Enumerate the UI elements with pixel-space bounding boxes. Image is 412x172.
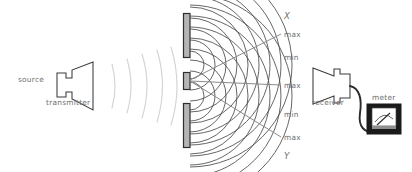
wavefront-arc-upper <box>190 51 204 79</box>
axis-label-y: Y <box>284 152 289 161</box>
fringe-label-min-upper: min <box>284 54 299 61</box>
diagram-canvas <box>0 0 412 172</box>
wavefront-arc-lower <box>190 0 292 172</box>
axis-label-x: X <box>284 12 290 21</box>
wavefront-arc-lower <box>190 82 204 110</box>
meter-label: meter <box>372 94 395 101</box>
wavefront-arc-upper <box>190 18 237 112</box>
fringe-label-max-lower-outer: max <box>284 134 301 141</box>
meter-base-bar <box>372 126 396 129</box>
fringe-label-min-lower: min <box>284 111 299 118</box>
source-label: source <box>18 76 44 83</box>
fringe-label-max-upper-outer: max <box>284 31 301 38</box>
incident-wave-arc <box>157 50 163 122</box>
incident-wave-arc <box>127 59 131 113</box>
barrier-segment-middle <box>184 73 191 90</box>
incident-wave-arc <box>171 47 177 125</box>
meter-face <box>372 108 396 126</box>
wavefront-arc-upper <box>190 0 259 134</box>
transmitter-label: transmitter <box>46 99 90 106</box>
incident-wave-arc <box>112 64 115 108</box>
incident-wave-arc <box>142 54 147 118</box>
interference-diagram: source transmitter receiver meter X Y ma… <box>0 0 412 172</box>
incident-wavefront-group <box>112 47 177 125</box>
ray-max-lower-outer <box>190 81 281 137</box>
barrier-segment-top <box>184 14 191 58</box>
meter-device <box>367 104 401 134</box>
barrier-group <box>184 14 191 148</box>
barrier-segment-bottom <box>184 104 191 148</box>
receiver-label: receiver <box>312 99 344 106</box>
fringe-label-max-center: max <box>284 82 301 89</box>
wavefront-group-lower-slit <box>190 0 292 172</box>
ray-max-upper-outer <box>190 34 281 80</box>
